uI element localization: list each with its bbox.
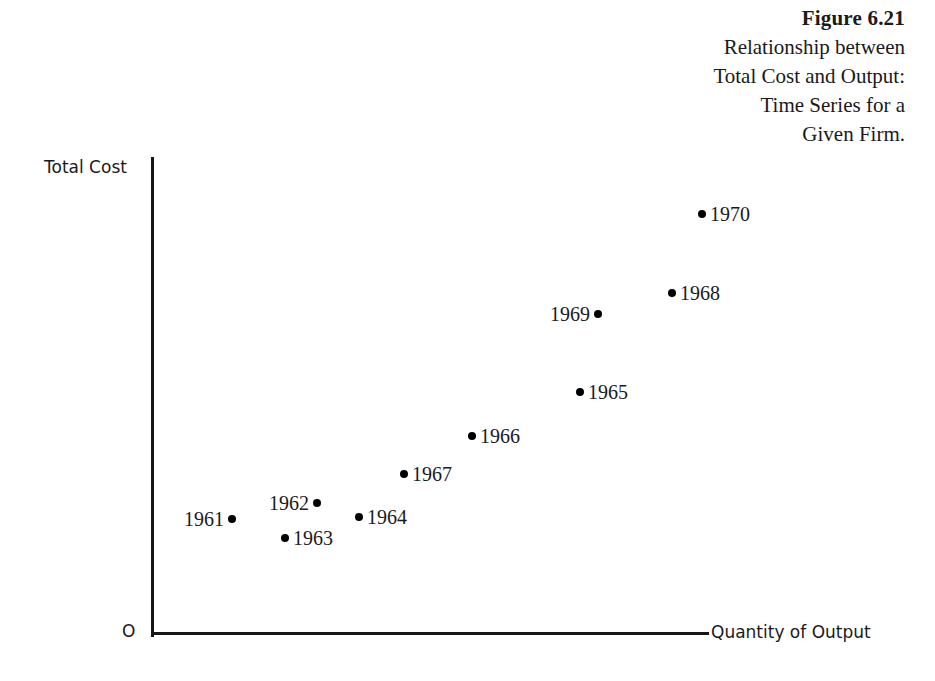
data-point-label: 1966 (480, 424, 520, 448)
scatter-plot: Total Cost Quantity of Output O 19611962… (0, 0, 935, 681)
data-point-marker (355, 513, 363, 521)
data-point-label: 1967 (412, 462, 452, 486)
data-point-label: 1970 (710, 202, 750, 226)
data-point-label: 1962 (269, 491, 309, 515)
y-axis-label: Total Cost (44, 157, 127, 178)
origin-label: O (122, 621, 135, 641)
data-point-marker (228, 515, 236, 523)
data-point-label: 1964 (367, 505, 407, 529)
data-point-marker (468, 432, 476, 440)
x-axis-line (151, 632, 709, 635)
data-point-label: 1965 (588, 380, 628, 404)
data-point-label: 1961 (184, 507, 224, 531)
y-axis-line (151, 157, 154, 637)
data-point-marker (698, 210, 706, 218)
data-point-label: 1969 (550, 302, 590, 326)
data-point-marker (594, 310, 602, 318)
data-point-marker (400, 470, 408, 478)
x-axis-label: Quantity of Output (711, 622, 871, 643)
data-point-marker (313, 499, 321, 507)
data-point-marker (281, 534, 289, 542)
figure-page: Figure 6.21 Relationship between Total C… (0, 0, 935, 681)
data-point-marker (668, 289, 676, 297)
data-point-label: 1963 (293, 526, 333, 550)
data-point-label: 1968 (680, 281, 720, 305)
data-point-marker (576, 388, 584, 396)
